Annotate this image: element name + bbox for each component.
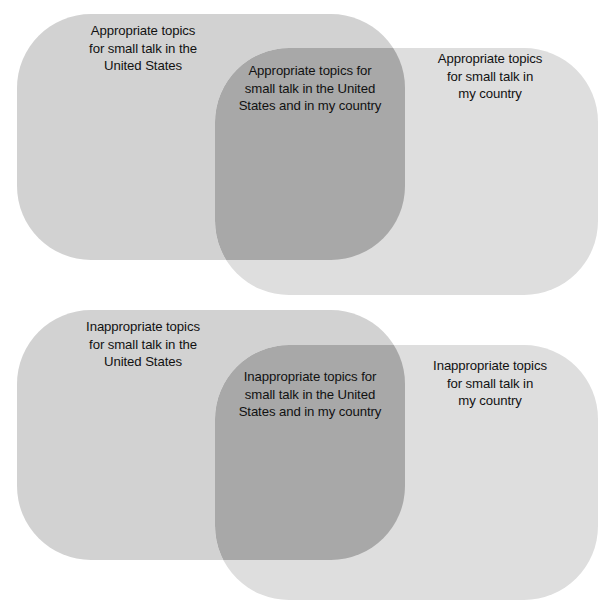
venn-diagram-canvas [0, 0, 615, 615]
venn-diagram-appropriate [17, 14, 598, 295]
venn-diagram-inappropriate [17, 310, 598, 600]
